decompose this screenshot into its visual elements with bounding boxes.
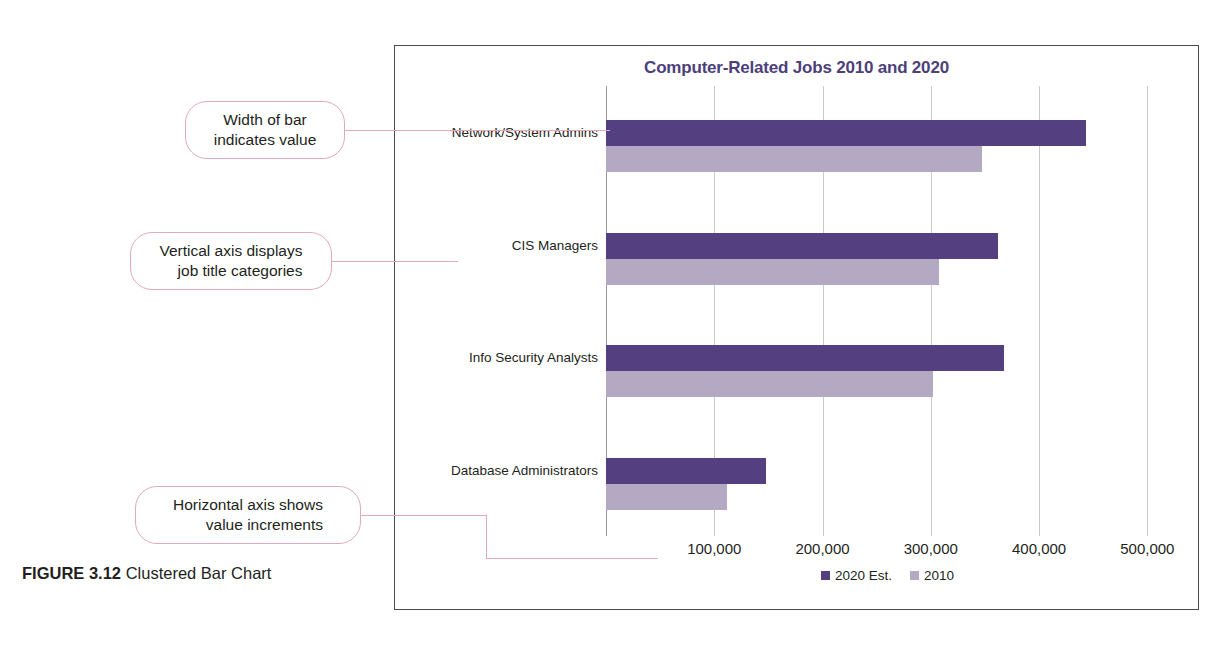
chart-legend: 2020 Est.2010: [606, 568, 1169, 583]
bar-group: Network/System Admins: [606, 120, 1169, 172]
figure-caption: FIGURE 3.12 Clustered Bar Chart: [22, 562, 322, 584]
bar-series-2020: [606, 345, 1004, 371]
x-tick-label: 500,000: [1120, 540, 1174, 557]
plot-area: Network/System AdminsCIS ManagersInfo Se…: [606, 86, 1169, 536]
bar-group: CIS Managers: [606, 233, 1169, 285]
legend-item: 2010: [910, 568, 954, 583]
category-label: Info Security Analysts: [469, 350, 598, 365]
callout-2-line1: Vertical axis displays: [159, 242, 302, 259]
chart-title: Computer-Related Jobs 2010 and 2020: [395, 58, 1198, 78]
bar-series-2010: [606, 371, 933, 397]
x-tick-label: 400,000: [1012, 540, 1066, 557]
callout-3-line2: value increments: [206, 516, 323, 533]
legend-swatch: [910, 571, 919, 580]
bar-series-2020: [606, 120, 1086, 146]
figure-caption-text: Clustered Bar Chart: [126, 564, 272, 582]
bar-group: Info Security Analysts: [606, 345, 1169, 397]
bar-group: Database Administrators: [606, 458, 1169, 510]
bar-series-2010: [606, 146, 982, 172]
leader-line-horizontal-axis-bottom: [486, 558, 658, 559]
x-tick-label: 300,000: [904, 540, 958, 557]
legend-label: 2010: [924, 568, 954, 583]
legend-label: 2020 Est.: [835, 568, 892, 583]
leader-line-horizontal-axis-top: [357, 515, 487, 516]
callout-vertical-axis: Vertical axis displays job title categor…: [130, 232, 332, 290]
category-label: Database Administrators: [451, 462, 598, 477]
leader-line-width-of-bar: [340, 130, 610, 131]
callout-width-of-bar: Width of bar indicates value: [185, 101, 345, 159]
category-label: CIS Managers: [512, 237, 598, 252]
callout-3-line1: Horizontal axis shows: [173, 496, 323, 513]
leader-line-vertical-axis: [328, 261, 458, 262]
category-label: Network/System Admins: [452, 125, 598, 140]
legend-swatch: [821, 571, 830, 580]
leader-line-horizontal-axis-drop: [486, 515, 487, 559]
x-tick-label: 200,000: [795, 540, 849, 557]
callout-1-line2: indicates value: [214, 131, 317, 148]
bar-series-2010: [606, 259, 939, 285]
figure-label: FIGURE 3.12: [22, 564, 121, 582]
bar-series-2010: [606, 484, 727, 510]
legend-item: 2020 Est.: [821, 568, 892, 583]
bar-series-2020: [606, 233, 998, 259]
callout-1-line1: Width of bar: [223, 111, 307, 128]
callout-horizontal-axis: Horizontal axis shows value increments: [135, 486, 361, 544]
bar-series-2020: [606, 458, 766, 484]
callout-2-line2: job title categories: [178, 262, 303, 279]
x-tick-label: 100,000: [687, 540, 741, 557]
